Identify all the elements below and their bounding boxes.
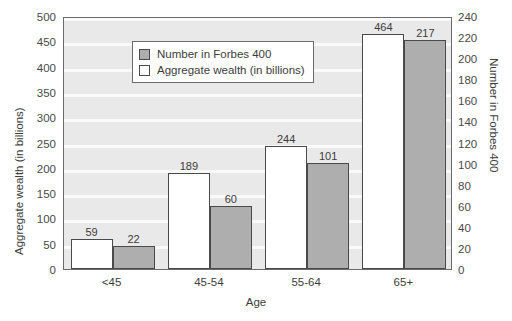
- bar-count: [210, 206, 252, 269]
- bar-value-label-count: 60: [210, 193, 252, 205]
- y-tick-right: 180: [458, 74, 490, 86]
- y-tick-right: 60: [458, 201, 490, 213]
- y-tick-left: 0: [26, 264, 56, 276]
- y-tick-right: 100: [458, 159, 490, 171]
- y-tick-left: 100: [26, 213, 56, 225]
- y-tick-left: 150: [26, 188, 56, 200]
- bar-wealth: [362, 34, 404, 269]
- legend-label-count: Number in Forbes 400: [157, 48, 271, 60]
- y-tick-right: 200: [458, 53, 490, 65]
- bar-value-label-wealth: 244: [265, 133, 307, 145]
- y-tick-right: 20: [458, 243, 490, 255]
- y-tick-left: 500: [26, 11, 56, 23]
- legend-label-wealth: Aggregate wealth (in billions): [157, 64, 305, 76]
- y-tick-left: 200: [26, 163, 56, 175]
- bar-count: [307, 163, 349, 269]
- bar-count: [404, 40, 446, 269]
- bar-wealth: [71, 239, 113, 269]
- legend-swatch-count-icon: [139, 49, 150, 60]
- bar-wealth: [168, 173, 210, 269]
- y-tick-left: 250: [26, 138, 56, 150]
- legend-item-count: Number in Forbes 400: [139, 46, 305, 62]
- y-tick-right: 0: [458, 264, 490, 276]
- plot-area: 592218960244101464217 Number in Forbes 4…: [63, 17, 452, 270]
- y-tick-left: 450: [26, 36, 56, 48]
- y-tick-left: 350: [26, 87, 56, 99]
- bar-wealth: [265, 146, 307, 269]
- x-tick-label: <45: [72, 276, 152, 288]
- y-tick-left: 300: [26, 112, 56, 124]
- x-tick-label: 65+: [363, 276, 443, 288]
- bar-value-label-wealth: 464: [362, 21, 404, 33]
- bar-value-label-wealth: 59: [71, 226, 113, 238]
- y-tick-right: 160: [458, 95, 490, 107]
- y-tick-right: 80: [458, 180, 490, 192]
- x-tick-label: 55-64: [266, 276, 346, 288]
- y-tick-left: 400: [26, 62, 56, 74]
- legend-item-wealth: Aggregate wealth (in billions): [139, 62, 305, 78]
- y-tick-right: 220: [458, 32, 490, 44]
- x-axis-title: Age: [0, 296, 512, 308]
- y-tick-right: 140: [458, 116, 490, 128]
- bar-value-label-count: 101: [307, 150, 349, 162]
- legend: Number in Forbes 400 Aggregate wealth (i…: [132, 41, 314, 83]
- bar-value-label-wealth: 189: [168, 160, 210, 172]
- y-tick-right: 40: [458, 222, 490, 234]
- legend-swatch-wealth-icon: [139, 65, 150, 76]
- bar-count: [113, 246, 155, 269]
- bar-value-label-count: 22: [113, 233, 155, 245]
- x-tick-label: 45-54: [169, 276, 249, 288]
- y-tick-right: 120: [458, 138, 490, 150]
- chart-figure: Aggregate wealth (in billions) Number in…: [0, 0, 512, 321]
- y-tick-right: 240: [458, 11, 490, 23]
- y-tick-left: 50: [26, 239, 56, 251]
- bar-value-label-count: 217: [404, 27, 446, 39]
- y-axis-left-title: Aggregate wealth (in billions): [13, 107, 25, 255]
